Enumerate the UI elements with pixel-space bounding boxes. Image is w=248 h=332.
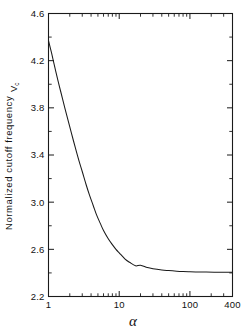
y-axis-title: Normalized cutoff frequency <box>3 96 14 230</box>
y-tick-label: 3.8 <box>31 102 45 113</box>
y-tick-label: 2.2 <box>31 291 45 302</box>
y-tick-labels: 2.22.63.03.43.84.24.6 <box>31 8 45 302</box>
x-tick-label: 10 <box>114 299 125 310</box>
y-tick-label: 2.6 <box>31 244 45 255</box>
data-series-line <box>49 41 233 273</box>
svg-text:Vc: Vc <box>8 82 20 92</box>
y-tick-label: 4.2 <box>31 55 45 66</box>
y-tick-label: 3.4 <box>31 149 45 160</box>
x-tick-label: 100 <box>182 299 198 310</box>
chart-svg: 110100400 2.22.63.03.43.84.24.6 α Normal… <box>0 0 248 332</box>
x-axis-title: α <box>129 313 138 329</box>
y-axis-symbol-subscript: c <box>13 82 20 86</box>
chart-figure: 110100400 2.22.63.03.43.84.24.6 α Normal… <box>0 0 248 332</box>
plot-frame <box>49 14 233 297</box>
y-tick-label: 4.6 <box>31 8 45 19</box>
axis-ticks <box>49 14 233 297</box>
x-tick-labels: 110100400 <box>46 299 241 310</box>
x-tick-label: 400 <box>224 299 240 310</box>
y-axis-symbol: Vc <box>8 82 20 92</box>
y-tick-label: 3.0 <box>31 197 45 208</box>
x-tick-label: 1 <box>46 299 51 310</box>
